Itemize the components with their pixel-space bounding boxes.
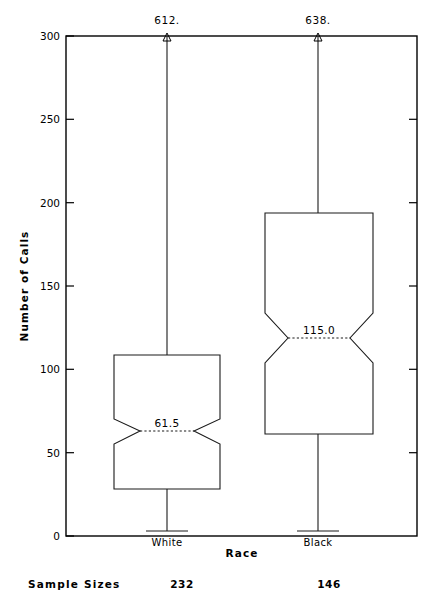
y-axis-tick-labels: 300 250 200 150 100 50 0 <box>40 30 60 542</box>
boxplot-black[interactable]: 638. 115.0 Black <box>265 14 373 548</box>
y-axis-ticks-left <box>66 36 74 536</box>
plot-frame <box>66 36 417 536</box>
white-median-label: 61.5 <box>155 417 180 429</box>
boxplot-figure: 300 250 200 150 100 50 0 Number of Calls… <box>0 0 446 610</box>
sample-size-white: 232 <box>170 578 194 590</box>
x-axis-title: Race <box>226 547 259 559</box>
white-outlier-label: 612. <box>154 14 179 26</box>
y-tick-label-0: 0 <box>53 530 60 542</box>
chart-canvas: 300 250 200 150 100 50 0 Number of Calls… <box>0 0 446 610</box>
y-axis-title: Number of Calls <box>18 231 30 342</box>
black-outlier-label: 638. <box>305 14 330 26</box>
y-tick-label-250: 250 <box>40 113 60 125</box>
y-axis-ticks-right <box>409 119 417 452</box>
y-tick-label-200: 200 <box>40 197 60 209</box>
y-tick-label-150: 150 <box>40 280 60 292</box>
sample-size-black: 146 <box>317 578 341 590</box>
x-category-label-black: Black <box>303 537 332 548</box>
sample-sizes-row: Sample Sizes 232 146 <box>28 578 341 590</box>
boxplot-white[interactable]: 612. 61.5 White <box>114 14 220 548</box>
black-median-label: 115.0 <box>303 324 335 336</box>
y-tick-label-100: 100 <box>40 363 60 375</box>
y-tick-label-50: 50 <box>47 447 60 459</box>
sample-sizes-label: Sample Sizes <box>28 578 121 590</box>
x-category-label-white: White <box>151 537 182 548</box>
y-tick-label-300: 300 <box>40 30 60 42</box>
